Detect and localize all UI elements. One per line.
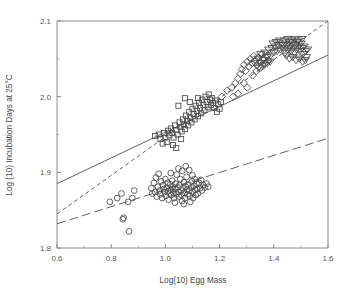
x-tick-label: 0.6 xyxy=(51,254,63,263)
data-point-square xyxy=(176,103,181,108)
y-tick-label: 1.9 xyxy=(40,168,52,177)
regression-lines xyxy=(57,21,328,224)
data-point-circle xyxy=(126,228,132,234)
x-tick-label: 1.0 xyxy=(160,254,172,263)
x-tick-label: 0.8 xyxy=(106,254,118,263)
data-point-diamond xyxy=(232,79,239,86)
x-tick-label: 1.4 xyxy=(268,254,280,263)
data-point-circle xyxy=(186,167,192,173)
y-tick-label: 1.8 xyxy=(40,244,52,253)
data-point-circle xyxy=(177,176,183,182)
plot-canvas: 0.60.81.01.21.41.6 1.81.92.02.1 Log(10) … xyxy=(0,0,348,302)
data-point-circle xyxy=(168,170,174,176)
x-tick-label: 1.2 xyxy=(214,254,226,263)
data-point-square xyxy=(187,99,192,104)
data-point-circle xyxy=(114,195,120,201)
series-diamonds xyxy=(218,51,272,101)
data-point-square xyxy=(182,96,187,101)
series-circles xyxy=(107,163,211,234)
data-point-diamond xyxy=(244,84,251,91)
data-point-circle xyxy=(119,191,125,197)
data-point-square xyxy=(170,143,175,148)
x-tick-label: 1.6 xyxy=(322,254,334,263)
data-point-circle xyxy=(184,174,190,180)
y-axis-title: Log (10) Incubation Days at 25°C xyxy=(5,74,14,195)
x-axis-tick-labels: 0.60.81.01.21.41.6 xyxy=(51,254,334,263)
axis-frame xyxy=(57,21,328,248)
data-point-circle xyxy=(107,199,113,205)
x-axis-title: Log(10) Egg Mass xyxy=(160,276,227,285)
y-axis-tick-labels: 1.81.92.02.1 xyxy=(40,17,52,253)
data-point-square xyxy=(174,146,179,151)
y-tick-label: 2.1 xyxy=(40,17,52,26)
scatter-plot-figure: 0.60.81.01.21.41.6 1.81.92.02.1 Log(10) … xyxy=(0,0,348,302)
data-point-circle xyxy=(131,188,137,194)
data-point-circle xyxy=(183,163,189,169)
y-tick-label: 2.0 xyxy=(40,93,52,102)
